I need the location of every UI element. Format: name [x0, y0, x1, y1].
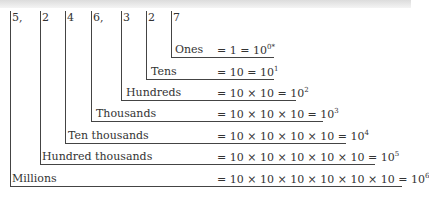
ones-bracket-horizontal: [171, 57, 274, 58]
label-ones: Ones: [175, 43, 203, 56]
thousands-bracket-vertical: [91, 11, 92, 122]
digit-millions: 5,: [12, 11, 23, 24]
millions-bracket-vertical: [10, 11, 11, 187]
thousands-bracket-horizontal: [91, 121, 323, 122]
top-shade: [0, 0, 411, 8]
ten-thousands-bracket-horizontal: [65, 143, 346, 144]
exponent-thousands: 3: [334, 107, 338, 115]
digit-thousands: 6,: [93, 11, 104, 24]
digit-ten-thousands: 4: [67, 11, 74, 24]
exponent-hundreds: 2: [304, 86, 308, 94]
label-millions: Millions: [12, 172, 57, 185]
equation-hundreds-text: = 10 × 10 = 10: [217, 87, 304, 100]
digit-hundred-thousands: 2: [42, 11, 49, 24]
ten-thousands-bracket-vertical: [65, 11, 66, 144]
hundred-thousands-bracket-horizontal: [40, 164, 375, 165]
exponent-tens: 1: [274, 65, 278, 73]
equation-ones-text: = 1 = 10: [217, 44, 267, 57]
exponent-ten-thousands: 4: [365, 129, 369, 137]
exponent-hundred-thousands: 5: [395, 150, 399, 158]
equation-ten-thousands: = 10 × 10 × 10 × 10 = 104: [217, 129, 369, 143]
exponent-millions: 6: [425, 172, 429, 180]
label-thousands: Thousands: [96, 107, 156, 120]
equation-thousands: = 10 × 10 × 10 = 103: [217, 107, 339, 121]
equation-millions-text: = 10 × 10 × 10 × 10 × 10 × 10 = 10: [217, 173, 425, 186]
equation-hundred-thousands-text: = 10 × 10 × 10 × 10 × 10 = 10: [217, 151, 395, 164]
equation-tens-text: = 10 = 10: [217, 66, 274, 79]
hundreds-bracket-horizontal: [121, 100, 296, 101]
hundred-thousands-bracket-vertical: [40, 11, 41, 165]
digit-hundreds: 3: [123, 11, 130, 24]
equation-ten-thousands-text: = 10 × 10 × 10 × 10 = 10: [217, 130, 365, 143]
footnote-marker: *: [271, 43, 275, 51]
hundreds-bracket-vertical: [121, 11, 122, 101]
digit-tens: 2: [148, 11, 155, 24]
equation-hundred-thousands: = 10 × 10 × 10 × 10 × 10 = 105: [217, 150, 399, 164]
digit-ones: 7: [173, 11, 180, 24]
millions-bracket-horizontal: [10, 186, 402, 187]
equation-thousands-text: = 10 × 10 × 10 = 10: [217, 108, 334, 121]
equation-millions: = 10 × 10 × 10 × 10 × 10 × 10 = 106: [217, 172, 429, 186]
label-ten-thousands: Ten thousands: [68, 129, 149, 142]
equation-tens: = 10 = 101: [217, 65, 278, 79]
ones-bracket-vertical: [171, 11, 172, 58]
label-hundred-thousands: Hundred thousands: [42, 150, 152, 163]
tens-bracket-vertical: [146, 11, 147, 80]
equation-ones: = 1 = 100*: [217, 43, 275, 57]
tens-bracket-horizontal: [146, 79, 274, 80]
equation-hundreds: = 10 × 10 = 102: [217, 86, 309, 100]
label-tens: Tens: [151, 65, 177, 78]
label-hundreds: Hundreds: [126, 86, 181, 99]
